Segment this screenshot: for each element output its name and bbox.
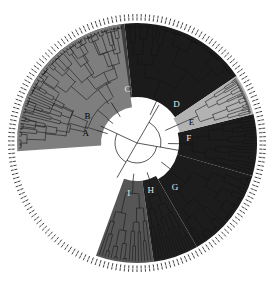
clade-label-a: A xyxy=(83,128,90,138)
clade-label-f: F xyxy=(186,133,191,143)
clade-label-d: D xyxy=(173,99,180,109)
clade-label-h: H xyxy=(148,185,155,195)
clade-label-b: B xyxy=(85,111,91,121)
clade-label-g: G xyxy=(172,182,179,192)
tree-canvas: DCBAIHGFE xyxy=(0,0,277,287)
clade-label-i: I xyxy=(127,188,130,198)
clade-label-c: C xyxy=(125,84,131,94)
clade-label-e: E xyxy=(189,117,195,127)
phylogenetic-tree-figure: DCBAIHGFE xyxy=(0,0,277,287)
